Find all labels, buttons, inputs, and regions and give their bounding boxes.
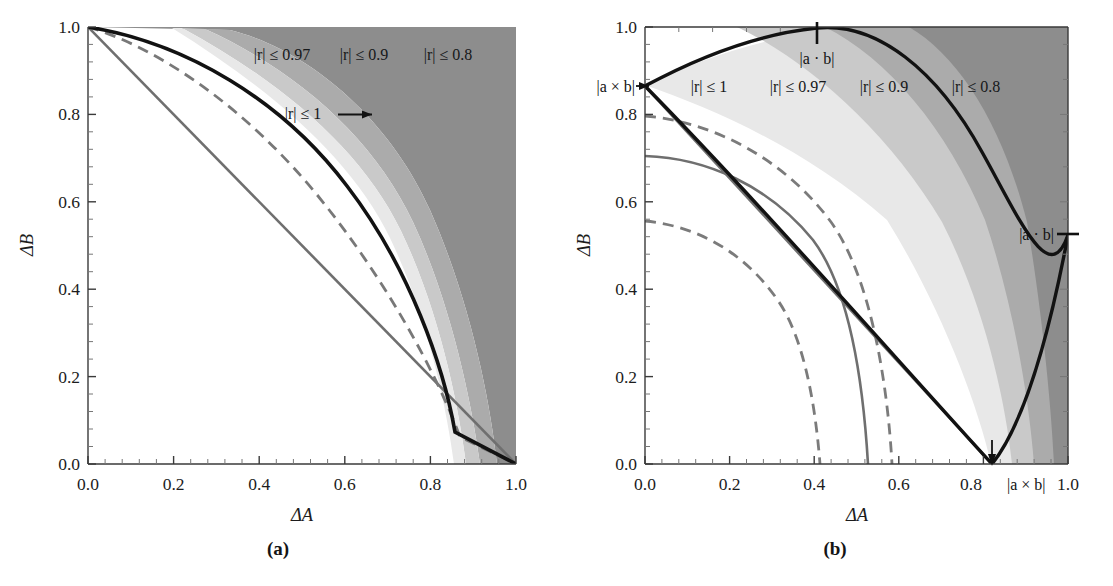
y-tick-label-b-3: 0.6: [615, 192, 637, 212]
x-tick-label-b-5: 1.0: [1057, 474, 1079, 494]
panel-a: 0.0 0.2 0.4 0.6 0.8 1.0 0.0 0.2 0.4 0.6 …: [0, 0, 556, 586]
region-label-a-r-le-0-97: |r| ≤ 0.97: [254, 46, 311, 64]
y-tick-label-a-0: 0.0: [58, 454, 80, 474]
panel-b-plot: 0.0 0.2 0.4 0.6 0.8 1.0 0.0 0.2 0.4 0.6 …: [557, 0, 1113, 530]
panel-a-plot: 0.0 0.2 0.4 0.6 0.8 1.0 0.0 0.2 0.4 0.6 …: [0, 0, 556, 530]
annot-a-dot-b-right: |a · b|: [1019, 226, 1054, 244]
annot-a-dot-b-top: |a · b|: [800, 50, 835, 68]
y-tick-label-a-1: 0.2: [58, 367, 80, 387]
x-tick-label-a-1: 0.2: [163, 474, 185, 494]
region-label-b-r-le-0-97: |r| ≤ 0.97: [770, 78, 827, 96]
x-tick-label-b-3: 0.6: [888, 474, 910, 494]
y-axis-title-a: ΔB: [17, 234, 37, 257]
x-axis-title-b: ΔA: [845, 505, 869, 525]
region-label-b-r-le-1: |r| ≤ 1: [691, 78, 728, 96]
x-tick-label-b-2: 0.4: [803, 474, 825, 494]
panel-b: 0.0 0.2 0.4 0.6 0.8 1.0 0.0 0.2 0.4 0.6 …: [557, 0, 1113, 586]
y-tick-label-a-5: 1.0: [58, 17, 80, 37]
y-tick-label-b-5: 1.0: [615, 17, 637, 37]
x-tick-label-b-1: 0.2: [719, 474, 741, 494]
y-tick-label-a-4: 0.8: [58, 104, 80, 124]
y-tick-label-a-2: 0.4: [58, 279, 80, 299]
x-tick-label-b-0: 0.0: [634, 474, 656, 494]
y-tick-label-b-0: 0.0: [615, 454, 637, 474]
y-tick-label-b-2: 0.4: [615, 279, 637, 299]
y-axis-title-b: ΔB: [574, 234, 594, 257]
region-label-a-r-le-0-9: |r| ≤ 0.9: [340, 46, 389, 64]
y-tick-label-b-4: 0.8: [615, 104, 637, 124]
panel-b-subcaption: (b): [557, 538, 1113, 560]
region-label-a-r-le-1: |r| ≤ 1: [285, 105, 322, 123]
annot-a-cross-b-bottom: |a × b|: [1007, 476, 1046, 494]
x-tick-label-a-0: 0.0: [77, 474, 99, 494]
region-label-a-r-le-0-8: |r| ≤ 0.8: [424, 46, 473, 64]
x-tick-label-a-2: 0.4: [248, 474, 270, 494]
x-tick-label-a-4: 0.8: [419, 474, 441, 494]
region-label-b-r-le-0-8: |r| ≤ 0.8: [952, 78, 1001, 96]
annot-a-cross-b-left: |a × b|: [596, 78, 635, 96]
region-label-b-r-le-0-9: |r| ≤ 0.9: [860, 78, 909, 96]
x-tick-label-a-5: 1.0: [505, 474, 527, 494]
x-tick-label-a-3: 0.6: [334, 474, 356, 494]
figure-root: 0.0 0.2 0.4 0.6 0.8 1.0 0.0 0.2 0.4 0.6 …: [0, 0, 1113, 586]
panel-a-subcaption: (a): [0, 538, 556, 560]
x-tick-label-b-4: 0.8: [960, 474, 982, 494]
y-tick-label-b-1: 0.2: [615, 367, 637, 387]
x-axis-title-a: ΔA: [290, 505, 314, 525]
y-tick-label-a-3: 0.6: [58, 192, 80, 212]
